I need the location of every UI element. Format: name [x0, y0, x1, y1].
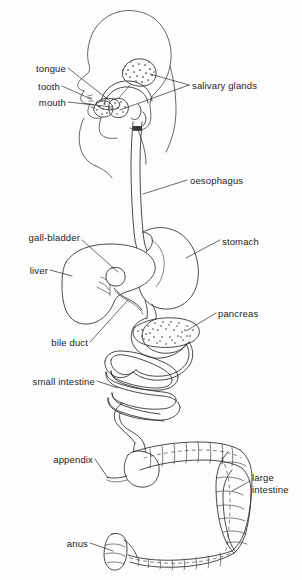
label-anus: anus: [48, 538, 88, 549]
leader-tooth: [62, 86, 91, 99]
anus: [104, 533, 137, 570]
label-stomach: stomach: [222, 236, 259, 247]
label-salivary-glands: salivary glands: [192, 80, 257, 91]
label-liver: liver: [8, 265, 48, 276]
leader-pancreas: [186, 313, 216, 331]
leader-large-intestine: [232, 481, 250, 491]
digestive-system-diagram: tongue tooth mouth salivary glands oesop…: [0, 0, 302, 580]
label-tongue: tongue: [8, 63, 66, 74]
label-small-intestine: small intestine: [6, 376, 95, 387]
label-bile-duct: bile duct: [22, 337, 88, 348]
liver: [62, 244, 155, 324]
duodenum: [131, 318, 193, 380]
label-oesophagus: oesophagus: [190, 175, 243, 186]
label-gall-bladder: gall-bladder: [10, 232, 80, 243]
label-appendix: appendix: [34, 454, 93, 465]
oesophagus: [131, 122, 149, 255]
label-pancreas: pancreas: [218, 308, 258, 319]
label-tooth: tooth: [8, 81, 60, 92]
label-mouth: mouth: [6, 97, 66, 108]
large-intestine: [124, 442, 252, 570]
small-intestine: [105, 351, 180, 461]
label-large-intestine-line2: intestine: [252, 484, 300, 496]
appendix: [107, 476, 127, 482]
label-large-intestine-line1: large: [252, 472, 300, 484]
head-profile: [78, 11, 176, 179]
leader-appendix: [95, 459, 108, 478]
leader-oesophagus: [143, 180, 187, 194]
